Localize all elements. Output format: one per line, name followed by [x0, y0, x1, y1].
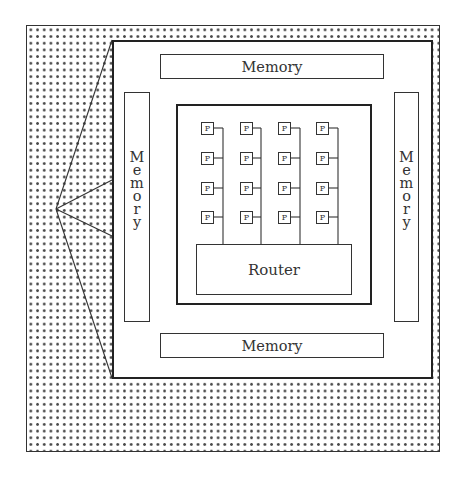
processor: P	[316, 211, 329, 224]
processor: P	[278, 122, 291, 135]
processor: P	[278, 152, 291, 165]
processor: P	[201, 122, 214, 135]
processor: P	[240, 122, 253, 135]
processor: P	[201, 152, 214, 165]
processor: P	[278, 182, 291, 195]
router-label: Router	[248, 261, 300, 279]
processor: P	[201, 211, 214, 224]
processor: P	[316, 182, 329, 195]
processor: P	[316, 152, 329, 165]
processor: P	[316, 122, 329, 135]
router: Router	[196, 244, 352, 295]
processor-bus-lines	[0, 0, 460, 478]
processor: P	[240, 182, 253, 195]
processor: P	[240, 152, 253, 165]
processor: P	[240, 211, 253, 224]
processor: P	[278, 211, 291, 224]
processor: P	[201, 182, 214, 195]
